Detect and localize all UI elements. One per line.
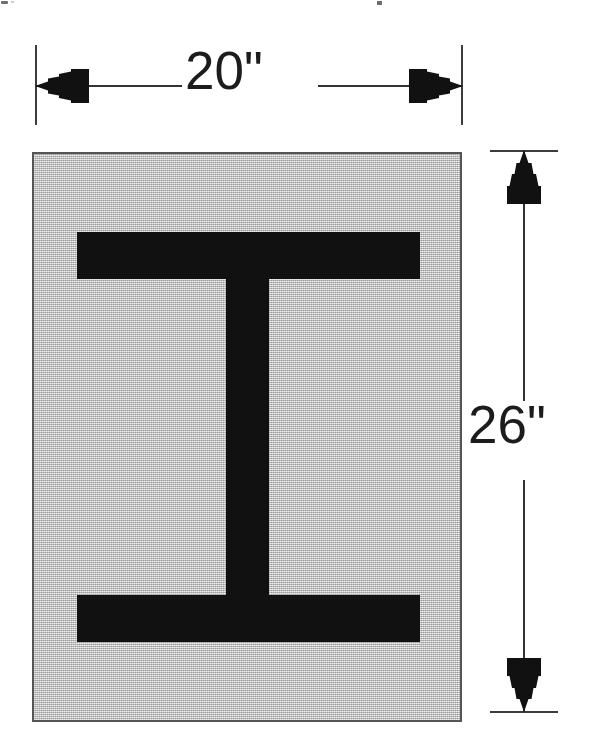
width-dimension-label: 20" (185, 44, 263, 97)
arrowhead-right-icon (401, 69, 463, 103)
beam-dimension-diagram: 20" 26" (0, 0, 594, 755)
scan-artifact-speck (377, 1, 382, 5)
beam-web (226, 232, 269, 642)
scan-artifact-speck (11, 1, 14, 3)
beam-bottom-flange (77, 595, 420, 642)
arrowhead-down-icon (507, 650, 541, 712)
height-dimension-label: 26" (468, 398, 546, 451)
arrowhead-up-icon (507, 150, 541, 212)
arrowhead-left-icon (35, 69, 97, 103)
scan-artifact-speck (1, 1, 8, 4)
beam-background-plate (32, 152, 462, 722)
